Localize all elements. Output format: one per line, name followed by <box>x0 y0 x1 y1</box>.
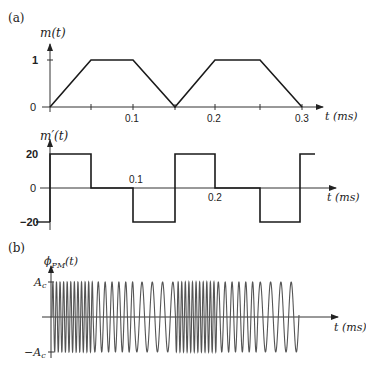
plot2-xlabel: t (ms) <box>327 191 360 204</box>
plot3-ylabel: ϕPM(t) <box>44 255 78 270</box>
plot3-ytick-negAc: −Ac <box>24 346 46 360</box>
plot1-xtick-0.1: 0.1 <box>125 113 139 124</box>
plot2-xtick-0.1: 0.1 <box>129 174 143 185</box>
plot3-xlabel: t (ms) <box>334 321 366 334</box>
plot1-ylabel: m(t) <box>40 26 66 40</box>
plot1-ytick-1: 1 <box>32 54 38 66</box>
plot2-ylabel: m′(t) <box>40 129 69 143</box>
plot-m-prime-t: m′(t) 20 0 −20 0.1 0.2 t (ms) <box>20 129 360 230</box>
panel-a-label: (a) <box>8 11 25 25</box>
plot1-xtick-0.3: 0.3 <box>295 113 309 124</box>
plot3-ytick-Ac: Ac <box>33 276 47 290</box>
plot2-xtick-0.2: 0.2 <box>208 192 222 203</box>
plot1-xlabel: t (ms) <box>325 110 358 123</box>
panel-b-label: (b) <box>8 241 25 255</box>
plot2-ytick-neg20: −20 <box>20 216 39 228</box>
figure-canvas: (a) m(t) 1 0 0.1 0.2 0.3 t (ms) m′(t) 20… <box>0 0 366 379</box>
plot1-waveform <box>50 60 302 107</box>
plot2-ytick-20: 20 <box>26 148 38 160</box>
plot-m-t: m(t) 1 0 0.1 0.2 0.3 t (ms) <box>30 26 358 124</box>
plot2-ytick-0: 0 <box>30 182 36 194</box>
plot1-xtick-0.2: 0.2 <box>207 113 221 124</box>
plot1-ytick-0: 0 <box>30 101 36 113</box>
plot-phi-pm: ϕPM(t) Ac −Ac t (ms) <box>24 255 366 360</box>
